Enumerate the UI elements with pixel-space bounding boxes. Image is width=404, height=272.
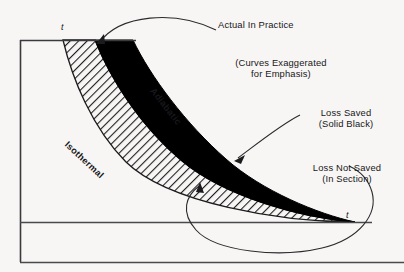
leader-actual-in-practice	[99, 18, 216, 43]
axis-label-t-top: t	[61, 22, 64, 32]
annotation-loss-not-saved-line2: (In Section)	[297, 174, 397, 185]
compression-loss-diagram: Actual In Practice (Curves Exaggerated f…	[0, 0, 404, 272]
annotation-loss-saved-line2: (Solid Black)	[303, 119, 389, 130]
leader-loss-saved	[238, 115, 300, 158]
annotation-curves-note-line2: for Emphasis)	[220, 69, 342, 80]
annotation-loss-saved: Loss Saved (Solid Black)	[303, 108, 389, 130]
axis-label-t-bottom: t	[346, 210, 349, 220]
annotation-curves-note: (Curves Exaggerated for Emphasis)	[220, 58, 342, 80]
annotation-loss-not-saved: Loss Not Saved (In Section)	[297, 163, 397, 185]
diagram-canvas	[0, 0, 404, 272]
annotation-actual-in-practice: Actual In Practice	[218, 20, 294, 31]
arrowhead-actual-in-practice	[96, 34, 105, 44]
